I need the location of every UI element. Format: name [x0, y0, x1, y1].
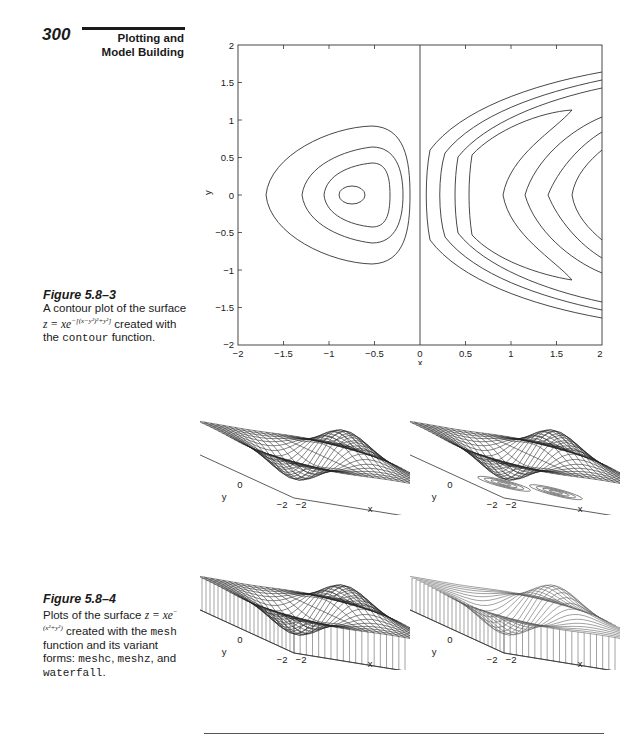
svg-text:0: 0	[447, 634, 452, 645]
svg-text:−0.5: −0.5	[365, 348, 384, 359]
header-rule	[82, 27, 185, 30]
code-term: meshz	[118, 653, 151, 665]
code-term: contour	[62, 332, 108, 344]
meshc-plot: 0.50−0.520−2−202zyx	[410, 390, 620, 515]
caption-text: created with the	[66, 625, 147, 637]
code-term: waterfall	[43, 667, 102, 679]
svg-text:2: 2	[597, 348, 602, 359]
svg-text:−2: −2	[277, 499, 288, 510]
mesh-plot: 0.50−0.520−2−202zyx	[200, 390, 410, 515]
svg-text:y: y	[222, 491, 227, 502]
figure-5-8-3-caption: Figure 5.8–3 A contour plot of the surfa…	[43, 289, 193, 345]
svg-text:0: 0	[229, 190, 234, 201]
svg-text:1.5: 1.5	[221, 77, 234, 88]
svg-text:0: 0	[447, 479, 452, 490]
svg-text:0: 0	[237, 634, 242, 645]
running-head-line1: Plotting and	[90, 31, 184, 45]
svg-text:−2: −2	[277, 654, 288, 665]
svg-text:y: y	[432, 491, 437, 502]
svg-text:x: x	[368, 658, 373, 669]
caption-text: function.	[112, 331, 155, 343]
meshz-plot: 0.50−0.520−2−202zyx	[200, 545, 410, 670]
code-term: meshc	[78, 653, 111, 665]
svg-text:−1.5: −1.5	[274, 348, 293, 359]
svg-text:−0.5: −0.5	[215, 227, 234, 238]
svg-text:0.5: 0.5	[459, 348, 472, 359]
svg-text:−1: −1	[324, 348, 335, 359]
figure-5-8-4-caption: Figure 5.8–4 Plots of the surface z = xe…	[43, 593, 193, 680]
svg-text:−2: −2	[487, 499, 498, 510]
svg-text:x: x	[578, 503, 583, 514]
svg-text:1: 1	[229, 115, 234, 126]
waterfall-plot: 0.50−0.520−2−202zyx	[410, 545, 620, 670]
caption-text: A contour plot of the surface	[43, 302, 186, 314]
svg-text:0.5: 0.5	[221, 152, 234, 163]
code-term: mesh	[150, 626, 176, 638]
svg-text:x: x	[578, 658, 583, 669]
y-axis-label: y	[202, 190, 213, 195]
equation: z = xe−[(x−y²)²+y²]	[43, 318, 111, 330]
caption-text: Plots of the surface	[43, 609, 141, 621]
page-number: 300	[42, 25, 70, 45]
svg-text:−2: −2	[506, 654, 517, 665]
svg-text:0: 0	[237, 479, 242, 490]
svg-text:y: y	[222, 646, 227, 657]
svg-text:−2: −2	[487, 654, 498, 665]
svg-text:−1: −1	[223, 265, 234, 276]
running-head: Plotting and Model Building	[90, 31, 184, 59]
svg-text:2: 2	[229, 40, 234, 51]
svg-text:−1.5: −1.5	[215, 302, 234, 313]
figure-label: Figure 5.8–4	[43, 593, 193, 606]
svg-text:−2: −2	[296, 654, 307, 665]
svg-text:1.5: 1.5	[550, 348, 563, 359]
svg-text:−2: −2	[506, 499, 517, 510]
svg-text:−2: −2	[296, 499, 307, 510]
x-axis-label: x	[418, 357, 423, 365]
footer-rule	[204, 733, 604, 734]
svg-text:x: x	[368, 503, 373, 514]
svg-text:−2: −2	[233, 348, 244, 359]
figure-label: Figure 5.8–3	[43, 289, 193, 302]
svg-text:1: 1	[508, 348, 513, 359]
running-head-line2: Model Building	[90, 45, 184, 59]
svg-text:y: y	[432, 646, 437, 657]
contour-plot: 2 1.5 1 0.5 0 −0.5 −1 −1.5 −2 −2 −1.5 −1…	[200, 35, 620, 365]
